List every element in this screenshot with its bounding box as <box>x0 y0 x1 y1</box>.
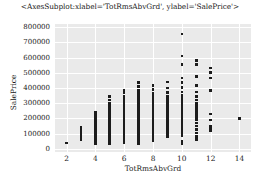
scatter-point <box>137 89 140 92</box>
scatter-point <box>181 102 184 105</box>
scatter-point <box>181 81 184 84</box>
scatter-point <box>209 113 212 116</box>
scatter-point <box>181 55 184 58</box>
scatter-point <box>152 100 155 103</box>
scatter-point <box>123 100 126 103</box>
scatter-point <box>181 86 184 89</box>
scatter-point <box>195 132 198 135</box>
scatter-point <box>195 113 198 116</box>
scatter-point <box>166 81 169 84</box>
scatter-point <box>108 95 111 98</box>
y-tick-label: 100000 <box>0 130 50 138</box>
scatter-point <box>65 142 68 145</box>
y-tick-label: 700000 <box>0 38 50 46</box>
scatter-point <box>195 110 198 113</box>
scatter-point <box>137 97 140 100</box>
x-tick-label: 2 <box>57 154 77 163</box>
scatter-plot-area <box>55 24 251 152</box>
scatter-point <box>94 111 97 114</box>
scatter-point <box>195 75 198 78</box>
scatter-point <box>166 95 169 98</box>
scatter-point <box>181 33 184 36</box>
scatter-point <box>181 94 184 97</box>
scatter-point <box>209 119 212 122</box>
scatter-point <box>123 95 126 98</box>
scatter-point <box>152 84 155 87</box>
scatter-point <box>94 113 97 116</box>
scatter-point <box>195 135 198 138</box>
scatter-point <box>166 91 169 94</box>
scatter-point <box>181 140 184 143</box>
scatter-point <box>166 87 169 90</box>
x-tick-label: 14 <box>229 154 249 163</box>
scatter-point <box>209 67 212 70</box>
scatter-point <box>195 108 198 111</box>
y-tick-label: 600000 <box>0 54 50 62</box>
x-tick-label: 6 <box>114 154 134 163</box>
x-axis-label: TotRmsAbvGrd <box>55 164 251 173</box>
scatter-point <box>123 98 126 101</box>
scatter-point <box>108 104 111 107</box>
scatter-point <box>123 89 126 92</box>
scatter-point <box>137 95 140 98</box>
matplotlib-figure: <AxesSubplot:xlabel='TotRmsAbvGrd', ylab… <box>0 0 260 187</box>
scatter-point <box>166 106 169 109</box>
x-tick-label: 4 <box>85 154 105 163</box>
scatter-point <box>181 100 184 103</box>
scatter-point <box>137 85 140 88</box>
scatter-point <box>108 102 111 105</box>
scatter-point <box>195 128 198 131</box>
scatter-point <box>137 81 140 84</box>
scatter-point <box>166 98 169 101</box>
scatter-point <box>209 89 212 92</box>
scatter-point <box>181 143 184 146</box>
scatter-point <box>181 77 184 80</box>
scatter-point <box>152 88 155 91</box>
scatter-point <box>195 99 198 102</box>
scatter-point <box>209 77 212 80</box>
y-tick-label: 0 <box>0 145 50 153</box>
scatter-point <box>166 104 169 107</box>
x-tick-label: 10 <box>172 154 192 163</box>
scatter-point <box>166 101 169 104</box>
scatter-point <box>195 95 198 98</box>
y-tick-label: 300000 <box>0 99 50 107</box>
scatter-point <box>80 126 83 129</box>
scatter-point <box>195 59 198 62</box>
y-tick-label: 200000 <box>0 114 50 122</box>
scatter-point <box>195 125 198 128</box>
scatter-point <box>195 91 198 94</box>
scatter-point <box>209 129 212 132</box>
scatter-point <box>181 91 184 94</box>
axessubplot-repr-title: <AxesSubplot:xlabel='TotRmsAbvGrd', ylab… <box>0 2 260 11</box>
scatter-point <box>152 95 155 98</box>
scatter-point <box>152 98 155 101</box>
scatter-point <box>209 127 212 130</box>
scatter-point <box>209 125 212 128</box>
y-tick-label: 800000 <box>0 23 50 31</box>
scatter-point <box>238 117 241 120</box>
y-tick-label: 400000 <box>0 84 50 92</box>
scatter-point <box>195 119 198 122</box>
x-tick-label: 12 <box>201 154 221 163</box>
gridline-vertical <box>239 24 240 152</box>
scatter-point <box>195 84 198 87</box>
scatter-point <box>209 71 212 74</box>
gridline-vertical <box>67 24 68 152</box>
scatter-point <box>181 97 184 100</box>
scatter-point <box>137 92 140 95</box>
scatter-point <box>195 122 198 125</box>
scatter-point <box>108 99 111 102</box>
scatter-point <box>152 92 155 95</box>
scatter-point <box>181 63 184 66</box>
scatter-point <box>195 63 198 66</box>
scatter-point <box>195 105 198 108</box>
scatter-point <box>195 116 198 119</box>
x-tick-label: 8 <box>143 154 163 163</box>
scatter-point <box>195 102 198 105</box>
y-tick-label: 500000 <box>0 69 50 77</box>
